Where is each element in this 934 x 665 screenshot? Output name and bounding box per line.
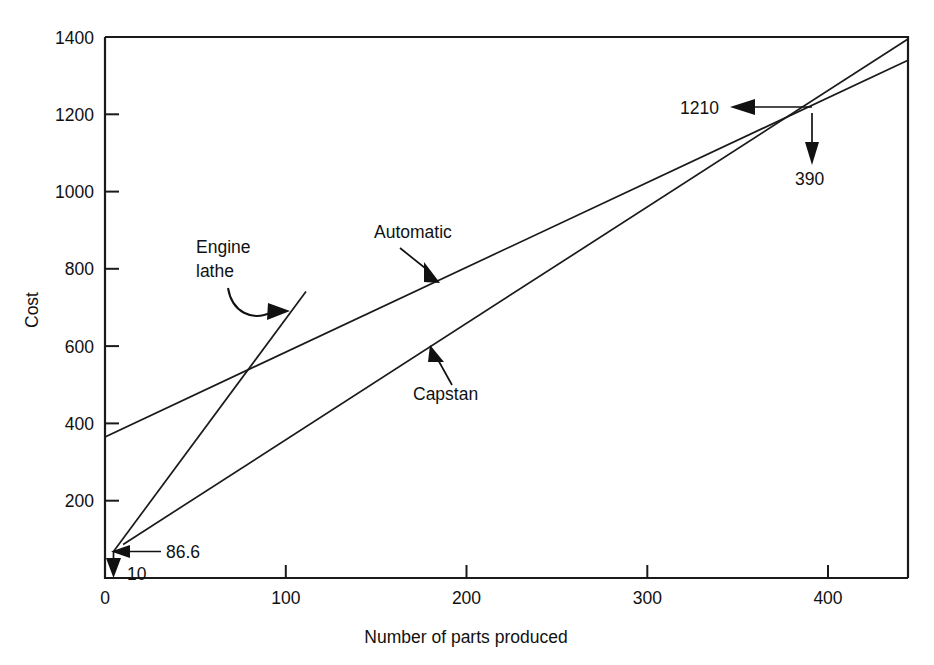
capstan-arrow-head (428, 345, 444, 362)
capstan-leader-line (437, 358, 452, 385)
x-tick-label-300: 300 (633, 588, 662, 608)
x-tick-label-100: 100 (271, 588, 300, 608)
annotation-10-arrow-head (106, 558, 121, 578)
x-tick-label-200: 200 (452, 588, 481, 608)
automatic-arrow-head (424, 262, 440, 283)
y-axis-title: Cost (22, 292, 42, 328)
series-label-engine-lathe-line1: Engine (196, 237, 251, 257)
y-axis-ticks (105, 114, 119, 500)
engine-lathe-leader-curve (228, 288, 272, 316)
x-axis-ticks (105, 565, 828, 578)
y-tick-label-400: 400 (65, 414, 94, 434)
axis-lines (105, 37, 908, 578)
data-series (105, 39, 908, 552)
y-tick-label-200: 200 (65, 491, 94, 511)
series-label-automatic-group: Automatic (374, 222, 452, 283)
series-line-engine-lathe (114, 292, 307, 552)
annotation-390-arrow-head (805, 142, 819, 165)
series-label-capstan-group: Capstan (413, 345, 478, 404)
annotation-label-10: 10 (127, 564, 147, 584)
series-label-engine-lathe-group: Engine lathe (196, 237, 290, 320)
x-axis-title: Number of parts produced (364, 627, 567, 647)
series-label-engine-lathe-line2: lathe (196, 261, 234, 281)
series-label-automatic: Automatic (374, 222, 452, 242)
plot-frame-top-right (105, 37, 908, 578)
x-tick-label-0: 0 (100, 588, 110, 608)
y-tick-label-600: 600 (65, 337, 94, 357)
x-tick-label-400: 400 (813, 588, 842, 608)
series-label-capstan: Capstan (413, 384, 478, 404)
annotation-label-390: 390 (795, 169, 824, 189)
y-tick-label-800: 800 (65, 259, 94, 279)
x-axis-tick-labels: 0 100 200 300 400 (100, 588, 843, 608)
y-tick-label-1000: 1000 (55, 182, 94, 202)
annotation-label-1210: 1210 (680, 98, 719, 118)
cost-vs-parts-chart: 200 400 600 800 1000 1200 1400 0 100 200… (0, 0, 934, 665)
y-tick-label-1200: 1200 (55, 105, 94, 125)
y-tick-label-1400: 1400 (55, 28, 94, 48)
annotation-label-86-6: 86.6 (166, 542, 200, 562)
annotation-intersection-quantity-group: 390 (795, 113, 824, 189)
annotation-setup-cost-group: 86.6 (111, 542, 200, 562)
y-axis-tick-labels: 200 400 600 800 1000 1200 1400 (55, 28, 94, 512)
plot-axes (105, 37, 908, 578)
series-line-capstan (123, 39, 908, 545)
annotation-1210-arrow-head (730, 99, 755, 115)
chart-container: 200 400 600 800 1000 1200 1400 0 100 200… (0, 0, 934, 665)
